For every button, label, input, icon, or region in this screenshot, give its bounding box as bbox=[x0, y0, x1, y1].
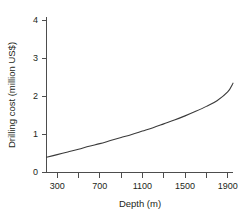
x-tick-label: 1900 bbox=[218, 181, 238, 191]
y-tick-label: 1 bbox=[33, 129, 38, 139]
drilling-cost-vs-depth-chart: 01234 Drilling cost (million US$) 300700… bbox=[0, 0, 242, 216]
y-tick-label: 3 bbox=[33, 53, 38, 63]
x-axis-title: Depth (m) bbox=[119, 198, 161, 209]
x-tick-label: 700 bbox=[92, 181, 107, 191]
x-tick-label: 1500 bbox=[175, 181, 195, 191]
y-tick-label: 2 bbox=[33, 91, 38, 101]
y-tick-label: 0 bbox=[33, 167, 38, 177]
x-tick-label: 1100 bbox=[133, 181, 152, 191]
chart-figure: 01234 Drilling cost (million US$) 300700… bbox=[0, 0, 242, 216]
chart-background bbox=[0, 0, 242, 216]
y-tick-label: 4 bbox=[33, 15, 38, 25]
x-tick-label: 300 bbox=[50, 181, 65, 191]
y-axis-title: Drilling cost (million US$) bbox=[6, 42, 17, 148]
